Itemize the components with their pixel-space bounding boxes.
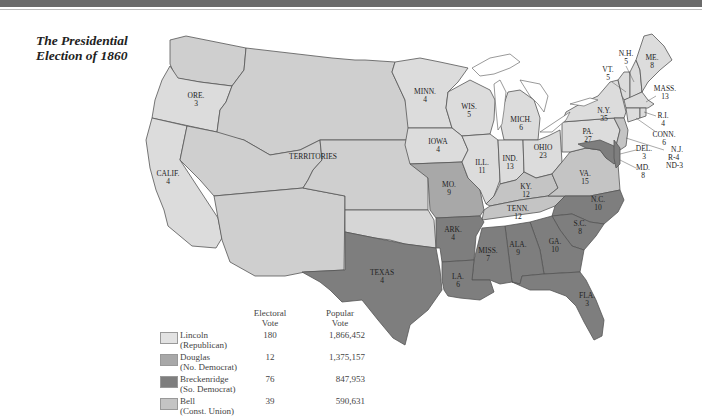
region-nebraska-territory <box>217 48 420 155</box>
leader-md <box>620 160 636 168</box>
leader-del <box>620 150 636 154</box>
svg-text:N.H.5: N.H.5 <box>619 49 634 66</box>
leader-conn <box>636 118 656 132</box>
legend-row-lincoln: Lincoln(Republican) 180 1,866,452 <box>160 330 460 352</box>
svg-text:ND-3: ND-3 <box>666 161 683 170</box>
legend-swatch-breckenridge <box>160 376 178 388</box>
svg-text:DEL.3: DEL.3 <box>636 144 653 161</box>
legend-swatch-lincoln <box>160 332 178 344</box>
svg-text:R.I.4: R.I.4 <box>657 111 668 128</box>
svg-text:TENN.12: TENN.12 <box>507 204 529 221</box>
legend-header-popular: Popular Vote <box>310 308 370 328</box>
state-connecticut <box>626 108 640 122</box>
svg-text:TERRITORIES: TERRITORIES <box>289 152 337 161</box>
legend-header-electoral: Electoral Vote <box>250 308 290 328</box>
svg-text:MASS.13: MASS.13 <box>654 84 676 101</box>
region-new-mexico-territory <box>214 188 345 276</box>
state-rhode-island <box>640 108 646 118</box>
legend-swatch-douglas <box>160 354 178 366</box>
state-mississippi <box>472 226 512 284</box>
legend-row-bell: Bell(Const. Union) 39 590,631 <box>160 396 460 418</box>
svg-text:VT.5: VT.5 <box>602 65 613 82</box>
legend-row-breckenridge: Breckenridge(So. Democrat) 76 847,953 <box>160 374 460 396</box>
legend-swatch-bell <box>160 398 178 410</box>
state-florida <box>512 272 604 340</box>
svg-text:MD.8: MD.8 <box>636 163 650 180</box>
legend-row-douglas: Douglas(No. Democrat) 12 1,375,157 <box>160 352 460 374</box>
lake-superior <box>472 54 520 76</box>
